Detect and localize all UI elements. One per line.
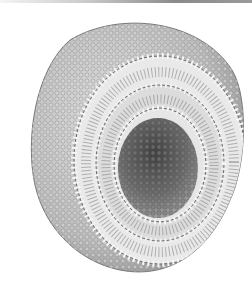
liposome-illustration [0,0,252,292]
aqueous-core [118,118,198,218]
